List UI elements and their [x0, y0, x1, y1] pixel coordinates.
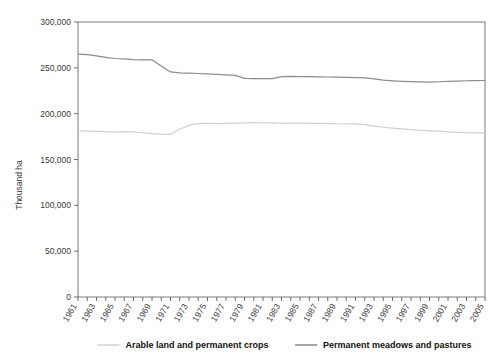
chart-container: 300,000250,000200,000150,000100,00050,00…: [0, 0, 501, 362]
y-tick-label: 0: [66, 292, 71, 302]
legend-label: Arable land and permanent crops: [125, 340, 268, 350]
y-tick-label: 250,000: [40, 63, 71, 73]
y-tick-label: 100,000: [40, 200, 71, 210]
y-axis-title: Thousand ha: [14, 160, 24, 210]
line-chart: 300,000250,000200,000150,000100,00050,00…: [0, 0, 501, 362]
y-tick-label: 300,000: [40, 17, 71, 27]
y-tick-label: 200,000: [40, 109, 71, 119]
y-tick-label: 150,000: [40, 155, 71, 165]
y-tick-label: 50,000: [45, 246, 71, 256]
legend-label: Permanent meadows and pastures: [323, 340, 472, 350]
